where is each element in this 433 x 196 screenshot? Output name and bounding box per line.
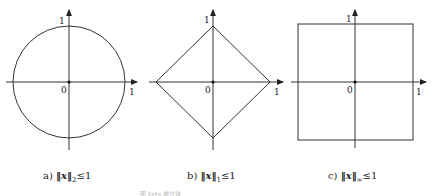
caption-prefix: a) <box>43 170 53 181</box>
origin-label: 0 <box>61 85 67 95</box>
origin-point <box>353 80 356 83</box>
panel-b-l1-ball <box>149 10 283 150</box>
norm-symbol: ‖x‖ <box>201 170 217 181</box>
x-tick-label: 1 <box>416 87 422 97</box>
x-tick-label: 1 <box>274 87 280 97</box>
y-tick-label: 1 <box>204 15 210 25</box>
origin-point <box>211 80 214 83</box>
caption-b: b) ‖x‖1≤1 <box>187 170 236 184</box>
y-tick-label: 1 <box>346 14 352 24</box>
figure-caption: 图 ‖x‖p 单位球 <box>140 189 300 196</box>
norm-symbol: ‖x‖ <box>56 170 72 181</box>
unit-ball-figure: 1 0 1 1 0 1 1 0 1 <box>0 0 433 196</box>
origin-point <box>67 80 70 83</box>
y-tick-label: 1 <box>59 16 65 26</box>
panel-c-linf-ball <box>291 10 426 148</box>
caption-a: a) ‖x‖2≤1 <box>43 170 91 184</box>
x-tick-label: 1 <box>129 87 135 97</box>
origin-label: 0 <box>347 85 353 95</box>
caption-relation: ≤1 <box>363 170 378 181</box>
caption-c: c) ‖x‖∞≤1 <box>328 170 377 184</box>
caption-relation: ≤1 <box>221 170 236 181</box>
caption-prefix: b) <box>187 170 197 181</box>
norm-symbol: ‖x‖ <box>341 170 357 181</box>
origin-label: 0 <box>205 85 211 95</box>
caption-prefix: c) <box>328 170 338 181</box>
panel-a-l2-ball <box>6 10 137 150</box>
caption-relation: ≤1 <box>77 170 92 181</box>
